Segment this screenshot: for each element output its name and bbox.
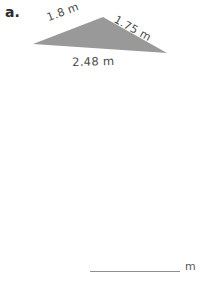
answer-unit-label: m [185, 260, 196, 274]
triangle-figure: 1.8 m 1.75 m 2.48 m [0, 0, 204, 85]
side-label-base: 2.48 m [72, 54, 115, 69]
answer-row: m [0, 260, 204, 281]
worksheet-page: a. 1.8 m 1.75 m 2.48 m m [0, 0, 204, 281]
triangle-shape [0, 0, 204, 85]
answer-blank-line[interactable] [90, 271, 180, 272]
